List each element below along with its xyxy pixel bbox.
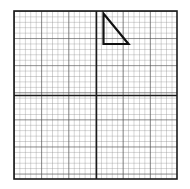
screenshot-root <box>0 0 190 189</box>
grid-figure <box>0 0 190 189</box>
